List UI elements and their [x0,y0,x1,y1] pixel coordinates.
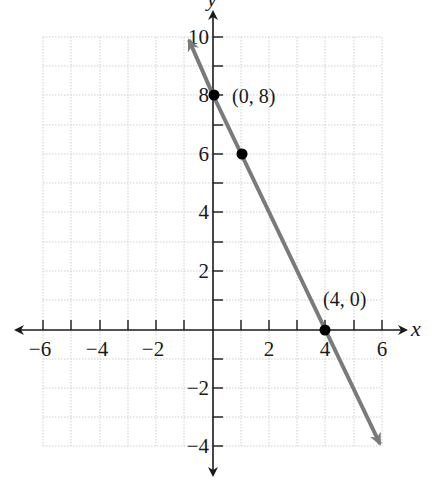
x-tick-label: −6 [29,337,51,361]
coordinate-plane: −6 −4 −2 2 4 6 10 8 6 4 2 −2 −4 x y (0, … [0,0,432,490]
point-label-4-0: (4, 0) [323,288,366,311]
y-axis-label: y [205,0,217,11]
y-tick-label: −4 [187,434,210,458]
x-tick-label: 6 [377,337,388,361]
x-tick-label: −4 [86,337,109,361]
x-tick-label: 2 [264,337,275,361]
point-label-0-8: (0, 8) [232,85,275,108]
x-tick-label: −2 [142,337,164,361]
point-4-0 [320,325,331,336]
point-1-6 [237,149,248,160]
y-tick-label: 6 [199,142,210,166]
x-axis-label: x [410,316,421,341]
y-tick-label: −2 [187,376,209,400]
y-tick-label: 2 [199,259,210,283]
y-tick-label: 4 [199,200,210,224]
point-0-8 [209,90,220,101]
